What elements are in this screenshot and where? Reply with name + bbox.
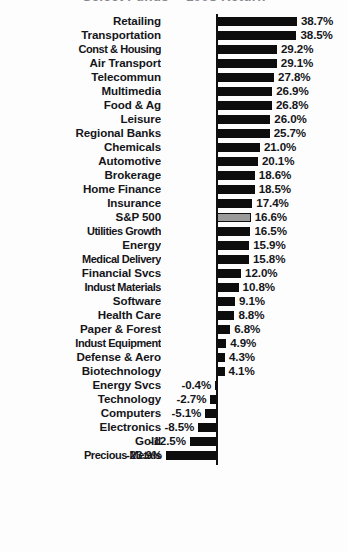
chart-row: Insurance17.4% [0, 196, 348, 210]
value-label: 25.7% [274, 126, 306, 140]
bar [216, 143, 260, 152]
bar [216, 101, 272, 110]
value-label: 15.8% [253, 252, 285, 266]
chart-row: Financial Svcs12.0% [0, 266, 348, 280]
chart-row: Leisure26.0% [0, 112, 348, 126]
chart-row: Telecommun27.8% [0, 70, 348, 84]
value-label: 9.1% [239, 294, 265, 308]
value-label: -8.5% [164, 420, 194, 434]
value-label: 15.9% [253, 238, 285, 252]
value-label: 38.5% [300, 28, 332, 42]
value-label: -12.5% [150, 434, 186, 448]
row-plot-area: 29.2% [0, 42, 348, 56]
chart-row: Home Finance18.5% [0, 182, 348, 196]
chart-row: Medical Delivery15.8% [0, 252, 348, 266]
chart-row: Biotechnology4.1% [0, 364, 348, 378]
row-plot-area: 15.9% [0, 238, 348, 252]
chart-row: Food & Ag26.8% [0, 98, 348, 112]
chart-row: Paper & Forest6.8% [0, 322, 348, 336]
row-plot-area: 16.5% [0, 224, 348, 238]
value-label: 10.8% [243, 280, 275, 294]
row-plot-area: 8.8% [0, 308, 348, 322]
bar [190, 437, 216, 446]
chart-row: Technology-2.7% [0, 392, 348, 406]
row-plot-area: 4.3% [0, 350, 348, 364]
row-plot-area: -23.9% [0, 448, 348, 462]
value-label: 18.6% [259, 168, 291, 182]
bar [216, 185, 255, 194]
bar [216, 283, 239, 292]
value-label: 17.4% [256, 196, 288, 210]
row-plot-area: 26.8% [0, 98, 348, 112]
chart-row: Utilities Growth16.5% [0, 224, 348, 238]
value-label: 29.2% [281, 42, 313, 56]
row-plot-area: 26.9% [0, 84, 348, 98]
chart-row: Chemicals21.0% [0, 140, 348, 154]
bar [216, 157, 258, 166]
row-plot-area: 38.7% [0, 14, 348, 28]
value-label: 12.0% [245, 266, 277, 280]
chart-row: Precious Metals-23.9% [0, 448, 348, 462]
bar [216, 129, 270, 138]
row-plot-area: -12.5% [0, 434, 348, 448]
chart-row: Const & Housing29.2% [0, 42, 348, 56]
chart-rows: Retailing38.7%Transportation38.5%Const &… [0, 14, 348, 462]
value-label: 21.0% [264, 140, 296, 154]
value-label: 8.8% [238, 308, 264, 322]
value-label: 20.1% [262, 154, 294, 168]
value-label: 26.8% [276, 98, 308, 112]
bar [216, 115, 270, 124]
chart-row: Air Transport29.1% [0, 56, 348, 70]
chart-row: Retailing38.7% [0, 14, 348, 28]
value-label: -5.1% [172, 406, 202, 420]
row-plot-area: 4.9% [0, 336, 348, 350]
chart-row: Health Care8.8% [0, 308, 348, 322]
row-plot-area: 4.1% [0, 364, 348, 378]
value-label: 38.7% [301, 14, 333, 28]
chart-row: Software9.1% [0, 294, 348, 308]
bar [216, 311, 234, 320]
bar [216, 325, 230, 334]
value-label: -23.9% [126, 448, 162, 462]
row-plot-area: 18.5% [0, 182, 348, 196]
bar [216, 45, 277, 54]
value-label: 4.3% [229, 350, 255, 364]
chart-row: Automotive20.1% [0, 154, 348, 168]
bar [205, 409, 216, 418]
row-plot-area: 25.7% [0, 126, 348, 140]
row-plot-area: -8.5% [0, 420, 348, 434]
bar [216, 241, 249, 250]
bar-highlighted [216, 213, 251, 222]
value-label: 16.6% [255, 210, 287, 224]
row-plot-area: 12.0% [0, 266, 348, 280]
value-label: 29.1% [281, 56, 313, 70]
chart-row: Electronics-8.5% [0, 420, 348, 434]
row-plot-area: -0.4% [0, 378, 348, 392]
chart-row: Regional Banks25.7% [0, 126, 348, 140]
bar [216, 227, 250, 236]
bar [216, 17, 297, 26]
value-label: 6.8% [234, 322, 260, 336]
value-label: 4.9% [230, 336, 256, 350]
value-label: -0.4% [181, 378, 211, 392]
row-plot-area: 17.4% [0, 196, 348, 210]
value-label: 26.0% [274, 112, 306, 126]
row-plot-area: -5.1% [0, 406, 348, 420]
chart-row: Energy Svcs-0.4% [0, 378, 348, 392]
bar-chart: Select Funds -- 1998 Return Retailing38.… [0, 0, 348, 552]
bar [216, 87, 272, 96]
bar [166, 451, 216, 460]
zero-axis-line [216, 14, 218, 465]
chart-title: Select Funds -- 1998 Return [0, 0, 348, 5]
bar [216, 199, 252, 208]
chart-row: Transportation38.5% [0, 28, 348, 42]
row-plot-area: 38.5% [0, 28, 348, 42]
bar [216, 171, 255, 180]
bar [216, 269, 241, 278]
row-plot-area: 26.0% [0, 112, 348, 126]
row-plot-area: 29.1% [0, 56, 348, 70]
row-plot-area: 16.6% [0, 210, 348, 224]
row-plot-area: 9.1% [0, 294, 348, 308]
value-label: -2.7% [177, 392, 207, 406]
bar [198, 423, 216, 432]
